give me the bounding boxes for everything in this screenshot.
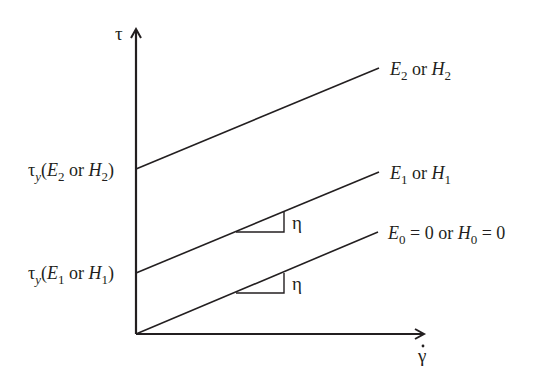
slope-label-e0: η (292, 273, 302, 294)
diagram-canvas: τ γ η η E2 or H2 E1 or H1 E0 = 0 or H0 =… (0, 0, 545, 379)
intercept-label-e1: τy(E1 or H1) (28, 263, 114, 287)
slope-label-e1: η (292, 212, 302, 233)
y-axis (131, 29, 141, 334)
flow-line-e2 (136, 68, 379, 169)
intercept-label-e2: τy(E2 or H2) (28, 160, 114, 184)
x-axis-label-dot (422, 345, 425, 348)
flow-line-e1 (136, 172, 379, 273)
end-label-e0: E0 = 0 or H0 = 0 (387, 223, 505, 247)
end-label-e2: E2 or H2 (389, 59, 451, 83)
x-axis-label: γ (417, 345, 426, 366)
flow-curve-diagram: τ γ η η E2 or H2 E1 or H1 E0 = 0 or H0 =… (0, 0, 545, 379)
y-axis-label: τ (115, 23, 123, 44)
end-label-e1: E1 or H1 (389, 163, 451, 187)
x-axis-label-gamma: γ (417, 345, 426, 366)
slope-triangle-e0 (236, 273, 284, 293)
flow-line-e0 (136, 232, 378, 334)
x-axis (136, 329, 424, 339)
